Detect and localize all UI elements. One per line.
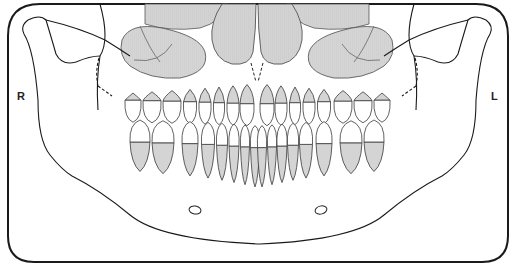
lower-tooth [299,122,312,178]
lower-tooth [316,122,332,176]
upper-tooth [199,88,211,124]
upper-tooth [317,89,330,123]
mandible-outline [23,4,492,244]
upper-tooth [213,87,224,125]
upper-tooth [260,85,274,126]
upper-tooth [227,86,239,125]
lower-tooth [340,121,362,174]
upper-tooth [143,92,161,123]
lower-tooth [130,120,150,172]
upper-tooth [240,85,254,126]
lower-tooth [216,123,227,180]
nasal-cavity [212,4,303,82]
lower-tooth [257,126,266,187]
upper-tooth [183,89,196,123]
right-side-label: R [17,90,25,102]
upper-tooth [163,91,181,124]
mental-foramen-right [188,205,201,215]
upper-dentition [125,85,390,126]
upper-tooth [374,93,390,122]
lower-tooth [152,121,174,174]
upper-tooth [303,88,315,124]
dental-panoramic-diagram [0,0,514,266]
upper-tooth [289,87,300,125]
left-side-label: L [491,90,498,102]
upper-tooth [125,93,141,122]
upper-tooth [334,91,352,124]
mental-foramen-left [314,205,328,216]
upper-tooth [354,92,372,123]
lower-tooth [267,125,276,185]
lower-tooth [364,120,384,172]
lower-tooth [287,123,298,180]
lower-tooth [229,124,239,183]
upper-tooth [275,86,287,125]
lower-tooth [201,122,214,178]
lower-tooth [240,125,249,185]
lower-tooth [182,122,198,176]
lower-dentition [130,120,384,187]
lower-tooth [277,124,287,183]
